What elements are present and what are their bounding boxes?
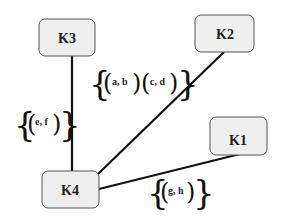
node-k3-label: K3 (58, 31, 76, 46)
right-curly-brace-icon: } (177, 63, 199, 103)
edge-k4-k1 (99, 154, 240, 189)
edge-label-k4-k3: { ( e, f ) } (14, 104, 81, 144)
right-curly-brace-icon: } (59, 104, 81, 144)
pair-ef: e, f (35, 116, 48, 127)
right-paren-icon: ) (132, 69, 141, 97)
diagram-canvas: K3 K2 K1 K4 { ( a, b ) ( c, d ) } { ( e,… (0, 0, 284, 220)
left-paren-icon: ( (141, 69, 150, 97)
pair-cd: c, d (150, 76, 165, 87)
pair-gh: g, h (168, 185, 184, 196)
node-k4[interactable]: K4 (42, 171, 99, 208)
edge-k4-k2 (98, 52, 224, 174)
edge-label-k4-k1: { ( g, h ) } (147, 172, 215, 212)
pair-ab: a, b (112, 76, 128, 87)
node-k2[interactable]: K2 (195, 15, 254, 52)
node-k4-label: K4 (61, 183, 79, 198)
edge-label-k4-k2: { ( a, b ) ( c, d ) } (89, 63, 199, 103)
node-k3[interactable]: K3 (39, 19, 95, 56)
left-paren-icon: ( (103, 69, 112, 97)
node-k1-label: K1 (229, 133, 247, 148)
right-curly-brace-icon: } (193, 172, 215, 212)
node-k1[interactable]: K1 (210, 117, 267, 155)
node-k2-label: K2 (216, 27, 234, 42)
